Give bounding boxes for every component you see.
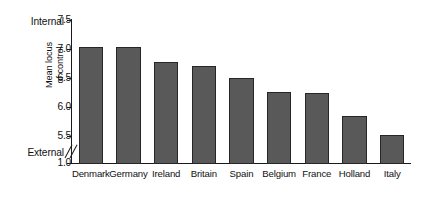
- x-tick-label-spain: Spain: [230, 168, 254, 179]
- bar-italy: [380, 135, 404, 164]
- x-tick-label-britain: Britain: [191, 168, 217, 179]
- x-axis-tick-labels: DenmarkGermanyIrelandBritainSpainBelgium…: [71, 168, 411, 188]
- bar-britain: [192, 66, 216, 164]
- x-tick-label-france: France: [302, 168, 331, 179]
- x-tick-label-germany: Germany: [109, 168, 147, 179]
- bar-france: [305, 93, 329, 165]
- bar-holland: [342, 116, 366, 164]
- x-tick-label-italy: Italy: [384, 168, 401, 179]
- plot-area: [71, 19, 411, 164]
- y-tick-mark: [67, 136, 72, 137]
- bar-denmark: [79, 47, 103, 164]
- x-tick-label-ireland: Ireland: [152, 168, 180, 179]
- bar-spain: [229, 78, 253, 164]
- bar-series: [72, 19, 411, 164]
- x-tick-label-holland: Holland: [339, 168, 370, 179]
- y-axis-tick-labels: 7.57.06.56.05.51.0: [43, 0, 71, 203]
- y-tick-mark: [67, 107, 72, 108]
- y-tick-mark: [67, 49, 72, 50]
- bar-belgium: [267, 92, 291, 164]
- bar-ireland: [154, 62, 178, 164]
- bar-chart-figure: Mean locus of control Internal External …: [0, 0, 424, 203]
- y-tick-mark: [67, 78, 72, 79]
- y-tick-mark: [67, 20, 72, 21]
- y-tick-mark: [67, 163, 72, 164]
- bar-germany: [116, 47, 140, 164]
- x-tick-label-denmark: Denmark: [72, 168, 110, 179]
- x-tick-label-belgium: Belgium: [262, 168, 296, 179]
